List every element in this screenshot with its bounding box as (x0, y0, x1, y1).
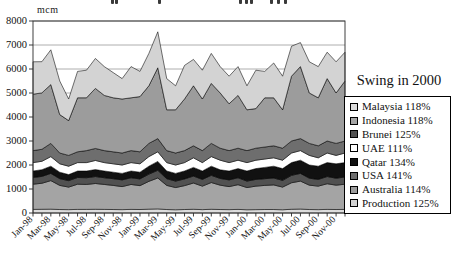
legend-swatch (350, 172, 358, 180)
y-axis-tick-label: 4000 (6, 111, 27, 122)
legend-swatch (350, 186, 358, 194)
legend-item-label: USA 141% (362, 170, 412, 181)
y-axis-tick-label: 6000 (6, 63, 27, 74)
legend-swatch (350, 158, 358, 166)
legend-item: UAE 111% (350, 141, 446, 155)
legend-swatch (350, 199, 358, 207)
legend-swatch (350, 117, 358, 125)
clipped-title-fragment (277, 0, 280, 4)
y-axis-tick-label: 1000 (6, 183, 27, 194)
legend-swatch (350, 130, 358, 138)
legend-box: Malaysia 118%Indonesia 118%Brunei 125%UA… (344, 96, 451, 214)
clipped-title-fragment (158, 0, 161, 4)
legend-swatch (350, 103, 358, 111)
legend-item: Qatar 134% (350, 155, 446, 169)
clipped-title-fragment (245, 0, 248, 4)
legend-item: Production 125% (350, 197, 446, 211)
legend-item-label: Indonesia 118% (362, 115, 433, 126)
legend-title: Swing in 2000 (344, 72, 454, 89)
legend-swatch (350, 144, 358, 152)
legend-item-label: Qatar 134% (362, 157, 415, 168)
clipped-title-fragment (239, 0, 242, 4)
legend-item-label: Brunei 125% (362, 129, 420, 140)
legend-item: Australia 114% (350, 183, 446, 197)
clipped-title-fragment (115, 0, 118, 4)
y-axis-unit-label: mcm (37, 4, 59, 15)
legend-item: Brunei 125% (350, 128, 446, 142)
clipped-title-fragment (250, 0, 253, 4)
y-axis-tick-label: 7000 (6, 39, 27, 50)
y-axis-tick-label: 3000 (6, 135, 27, 146)
legend-item: Malaysia 118% (350, 100, 446, 114)
clipped-title-fragment (284, 0, 287, 4)
clipped-title-fragment (270, 0, 273, 4)
y-axis-tick-label: 2000 (6, 159, 27, 170)
y-axis-tick-label: 5000 (6, 87, 27, 98)
clipped-title-fragment (111, 0, 114, 4)
legend-item-label: Production 125% (362, 198, 439, 209)
legend-item: USA 141% (350, 169, 446, 183)
legend-item-label: UAE 111% (362, 143, 412, 154)
legend-item-label: Australia 114% (362, 184, 430, 195)
legend-item-label: Malaysia 118% (362, 101, 430, 112)
legend-item: Indonesia 118% (350, 114, 446, 128)
y-axis-tick-label: 8000 (6, 15, 27, 26)
